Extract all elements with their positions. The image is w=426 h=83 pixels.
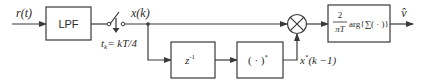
- output-label: v̂: [401, 6, 407, 20]
- multiplier-icon: [288, 15, 307, 34]
- input-label: r(t): [16, 6, 32, 20]
- wire-conj-multiplier: [283, 34, 297, 60]
- estimator-function: arg{∑( · )}: [349, 19, 389, 29]
- xk-label: x(k): [130, 6, 150, 20]
- frequency-estimator-block: 2 πT arg{∑( · )}: [328, 5, 390, 42]
- sampler-arrow-icon: [113, 28, 120, 33]
- input-signal: r(t): [12, 6, 46, 24]
- delay-block: z-1: [171, 42, 215, 78]
- sampler-label: tk= kT/4: [101, 37, 137, 51]
- estimator-numerator: 2: [338, 10, 343, 20]
- lpf-label: LPF: [58, 18, 78, 30]
- lpf-block: LPF: [46, 7, 91, 40]
- conjugate-block: ( · )*: [237, 42, 283, 78]
- block-diagram: r(t) LPF tk= kT/4 x(k) z-1 ( · )* x*(k −…: [0, 0, 426, 83]
- wire-branch-delay: [148, 24, 171, 60]
- estimator-denominator: πT: [335, 24, 346, 34]
- conj-delayed-label: x*(k −1): [299, 53, 337, 67]
